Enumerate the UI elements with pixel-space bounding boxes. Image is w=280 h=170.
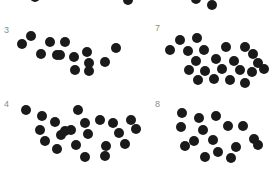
dot-array-stimulus-canvas: 3748 [0,0,280,170]
dot [191,0,202,4]
dot [207,0,218,10]
dot [30,0,41,2]
dot [123,0,134,5]
dot-cluster-partial [0,0,280,170]
